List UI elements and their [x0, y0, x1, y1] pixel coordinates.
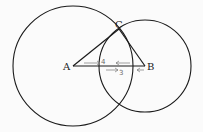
annotation-lower: 3 [106, 68, 144, 77]
diagram-svg: A B C 4 3 [0, 0, 203, 132]
label-b: B [147, 61, 154, 72]
segment-ac [73, 29, 119, 66]
label-c: C [115, 19, 123, 30]
annotation-upper-value: 4 [101, 58, 106, 66]
geometry-diagram: A B C 4 3 [0, 0, 203, 132]
arrow-left-icon [137, 68, 144, 72]
label-a: A [62, 61, 71, 72]
annotation-upper: 4 [84, 58, 130, 66]
annotation-lower-value: 3 [119, 69, 123, 77]
arrow-right-icon [106, 68, 118, 72]
arrow-left-icon [116, 61, 130, 65]
arrow-right-icon [84, 61, 100, 65]
segment-bc [119, 29, 145, 66]
